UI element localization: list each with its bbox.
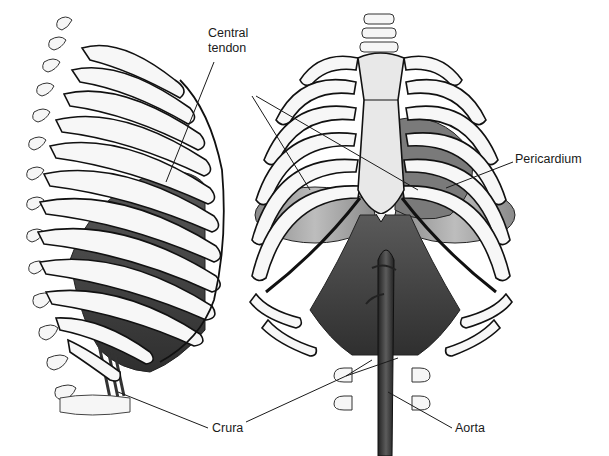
label-aorta: Aorta	[455, 421, 485, 436]
label-crura: Crura	[212, 421, 243, 436]
label-central-tendon: Central tendon	[208, 26, 268, 56]
leader-crura-lateral	[118, 392, 208, 428]
diaphragm-illustration	[0, 0, 609, 456]
label-central-tendon-line2: tendon	[208, 41, 268, 56]
anterior-view	[250, 14, 515, 456]
label-pericardium: Pericardium	[515, 152, 582, 167]
aorta-vessel	[378, 250, 394, 456]
lateral-view	[27, 17, 224, 415]
sternum	[358, 53, 404, 214]
leader-crura-anterior	[246, 376, 346, 422]
label-central-tendon-line1: Central	[208, 26, 268, 41]
